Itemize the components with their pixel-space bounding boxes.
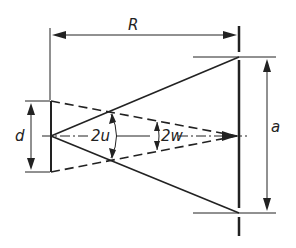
distance-label: R (128, 16, 138, 34)
arrow-left-icon (52, 31, 66, 39)
aperture-angle-label: 2u (91, 127, 110, 145)
upper-marginal-ray (51, 57, 239, 136)
lower-chief-ray (51, 136, 237, 172)
distance-dimension (50, 28, 237, 100)
optics-diagram: R a d 2u 2w (0, 0, 296, 248)
arrow-right-icon (223, 31, 237, 39)
upper-chief-ray (51, 101, 237, 136)
arrow-right-icon (222, 131, 237, 141)
aperture-diameter-label: d (15, 127, 25, 145)
lower-marginal-ray (51, 136, 239, 213)
screen-width-label: a (271, 118, 280, 136)
field-angle-label: 2w (161, 127, 184, 145)
